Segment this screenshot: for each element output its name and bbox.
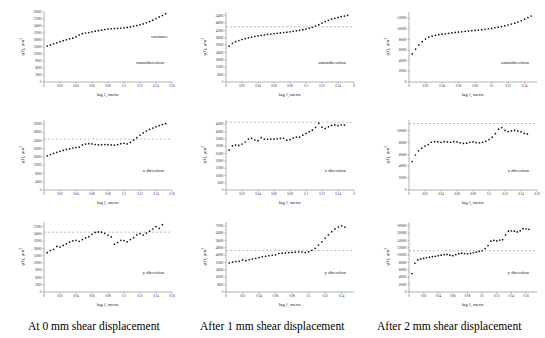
panel-r1c2-svg: 0600012000180002400030000360004200048000… bbox=[182, 2, 362, 106]
panel-r3c1: 0300060009000120001500018000210002400027… bbox=[0, 212, 180, 316]
data-point bbox=[241, 143, 243, 145]
data-point bbox=[295, 251, 297, 253]
x-tick-label: 0 bbox=[225, 192, 227, 196]
column-caption-1: After 1 mm shear displacement bbox=[200, 320, 344, 332]
direction-annotation: y direction bbox=[324, 270, 346, 275]
data-point bbox=[75, 239, 77, 241]
data-point bbox=[443, 254, 445, 256]
data-point bbox=[254, 36, 256, 38]
data-point bbox=[72, 240, 74, 242]
x-tick-label: 0.14 bbox=[153, 84, 159, 88]
data-point bbox=[82, 239, 84, 241]
data-point bbox=[528, 229, 530, 231]
y-tick-label: 45000 bbox=[216, 122, 224, 126]
panel-r2c2: 0500010000150002000025000300003500040000… bbox=[182, 110, 362, 214]
data-point bbox=[245, 260, 247, 262]
data-point bbox=[514, 130, 516, 132]
data-point bbox=[425, 38, 427, 40]
data-point bbox=[484, 28, 486, 30]
data-point bbox=[328, 19, 330, 21]
x-tick-label: 0.14 bbox=[153, 192, 159, 196]
data-point bbox=[155, 18, 157, 20]
data-point bbox=[478, 29, 480, 31]
x-tick-label: 0.12 bbox=[505, 84, 511, 88]
column-caption-0: At 0 mm shear displacement bbox=[28, 320, 160, 332]
data-point bbox=[254, 139, 256, 141]
data-point bbox=[82, 33, 84, 35]
data-point bbox=[431, 35, 433, 37]
x-axis-title: lag l, metre bbox=[279, 92, 302, 98]
data-point bbox=[428, 36, 430, 38]
data-point bbox=[117, 144, 119, 146]
data-point bbox=[501, 26, 503, 28]
data-point bbox=[519, 230, 521, 232]
data-point bbox=[238, 260, 240, 262]
y-tick-label: 21000 bbox=[34, 31, 42, 35]
data-point bbox=[454, 32, 456, 34]
data-point bbox=[155, 226, 157, 228]
data-point bbox=[523, 132, 525, 134]
data-point bbox=[315, 126, 317, 128]
data-point bbox=[252, 258, 254, 260]
data-point bbox=[511, 230, 513, 232]
data-point bbox=[469, 141, 471, 143]
x-tick-label: 0.16 bbox=[169, 294, 175, 298]
panel-r3c1-svg: 0300060009000120001500018000210002400027… bbox=[0, 212, 180, 316]
x-tick-label: 0.16 bbox=[523, 294, 529, 298]
data-point bbox=[304, 252, 306, 254]
x-axis-title: lag l, metre bbox=[279, 200, 302, 206]
panel-r1c1: 0300060009000120001500018000210002400027… bbox=[0, 2, 180, 106]
data-point bbox=[446, 254, 448, 256]
data-point bbox=[101, 144, 103, 146]
figure-column-2: 02000040000600008000010000012000000.020.… bbox=[365, 0, 545, 338]
data-point bbox=[344, 226, 346, 228]
data-point bbox=[421, 147, 423, 149]
data-point bbox=[450, 141, 452, 143]
data-point bbox=[53, 153, 55, 155]
column-caption-2: After 2 mm shear displacement bbox=[377, 320, 521, 332]
data-point bbox=[46, 155, 48, 157]
data-point bbox=[85, 237, 87, 239]
x-tick-label: 0.06 bbox=[271, 84, 277, 88]
x-axis-title: lag l, metre bbox=[462, 92, 485, 98]
data-point bbox=[321, 126, 323, 128]
data-point bbox=[305, 133, 307, 135]
x-tick-label: 0.14 bbox=[339, 294, 345, 298]
data-point bbox=[50, 44, 52, 46]
x-tick-label: 0.04 bbox=[73, 84, 79, 88]
panel-r2c3: 02000040000600008000010000000.020.040.06… bbox=[365, 110, 545, 214]
data-point bbox=[434, 141, 436, 143]
data-point bbox=[110, 236, 112, 238]
data-point bbox=[46, 252, 48, 254]
y-tick-label: 80000 bbox=[399, 38, 407, 42]
x-tick-label: 0.02 bbox=[421, 294, 427, 298]
data-point bbox=[248, 138, 250, 140]
data-point bbox=[267, 138, 269, 140]
data-point bbox=[158, 227, 160, 229]
data-point bbox=[517, 21, 519, 23]
x-tick-label: 0.08 bbox=[470, 192, 476, 196]
y-tick-label: 180000 bbox=[397, 224, 407, 228]
data-point bbox=[110, 28, 112, 30]
data-point bbox=[468, 30, 470, 32]
data-point bbox=[305, 28, 307, 30]
data-point bbox=[461, 31, 463, 33]
data-point bbox=[94, 144, 96, 146]
data-point bbox=[264, 34, 266, 36]
data-point bbox=[517, 130, 519, 132]
y-tick-label: 80000 bbox=[399, 141, 407, 145]
data-point bbox=[318, 244, 320, 246]
y-tick-label: 0 bbox=[405, 188, 407, 192]
data-point bbox=[504, 25, 506, 27]
data-point bbox=[98, 30, 100, 32]
y-tick-label: 21000 bbox=[34, 239, 42, 243]
panel-r3c2: 0800016000240003200040000480005600064000… bbox=[182, 212, 362, 316]
x-tick-label: 0 bbox=[43, 294, 45, 298]
data-point bbox=[344, 15, 346, 17]
data-point bbox=[69, 241, 71, 243]
data-point bbox=[66, 243, 68, 245]
data-point bbox=[133, 237, 135, 239]
data-point bbox=[88, 143, 90, 145]
data-point bbox=[123, 240, 125, 242]
data-point bbox=[481, 29, 483, 31]
